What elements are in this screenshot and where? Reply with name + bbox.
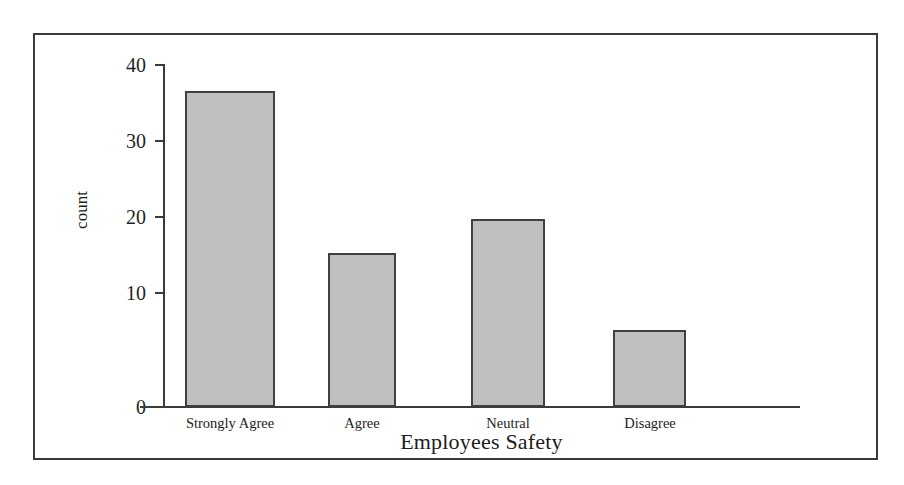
y-tick-label-10-wrap: 10 (100, 283, 146, 303)
y-tick-label-20-wrap: 20 (100, 207, 146, 227)
y-tick-label-10: 10 (100, 283, 146, 303)
y-tick-label-30-wrap: 30 (100, 131, 146, 151)
bar-neutral (471, 219, 545, 407)
bar-agree (328, 253, 396, 407)
y-tick-label-30: 30 (100, 131, 146, 151)
y-tick-label-40: 40 (100, 55, 146, 75)
figure-border (33, 33, 878, 460)
y-tick-label-40-wrap: 40 (100, 55, 146, 75)
y-axis-line (163, 64, 165, 408)
bar-disagree (613, 330, 686, 407)
bar-strongly-agree (185, 91, 275, 407)
x-axis-title: Employees Safety (163, 429, 800, 455)
y-tick-label-20: 20 (100, 207, 146, 227)
y-axis-title: count (72, 175, 92, 245)
figure-screenshot: 40 30 20 10 0 Strongly Agree Agree Neutr… (0, 0, 904, 485)
